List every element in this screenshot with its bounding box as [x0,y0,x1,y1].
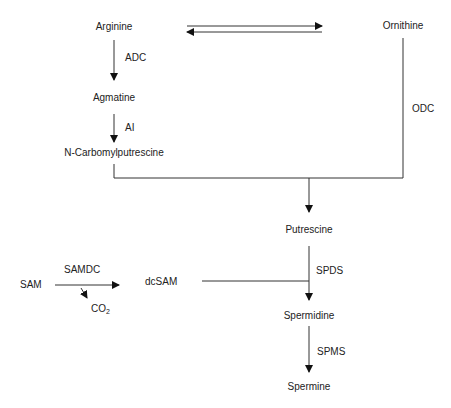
node-ornithine: Ornithine [383,20,424,32]
node-agmatine: Agmatine [93,92,135,104]
node-spermidine: Spermidine [284,310,335,322]
enzyme-ai: AI [125,122,134,134]
enzyme-odc: ODC [412,103,434,115]
node-arginine: Arginine [96,21,133,33]
node-putrescine: Putrescine [285,224,332,236]
pathway-diagram [0,0,451,408]
enzyme-samdc: SAMDC [64,264,100,276]
node-n-carbamoylputrescine: N-Carbomylputrescine [64,147,163,159]
enzyme-spds: SPDS [316,265,343,277]
node-spermine: Spermine [288,381,331,393]
arrow-co2-release [81,288,87,298]
node-co2: CO2 [91,303,110,318]
enzyme-spms: SPMS [317,346,345,358]
co2-subscript: 2 [106,308,110,315]
co2-label: CO [91,303,106,314]
enzyme-adc: ADC [125,52,146,64]
node-sam: SAM [20,279,42,291]
node-dcsam: dcSAM [145,276,177,288]
